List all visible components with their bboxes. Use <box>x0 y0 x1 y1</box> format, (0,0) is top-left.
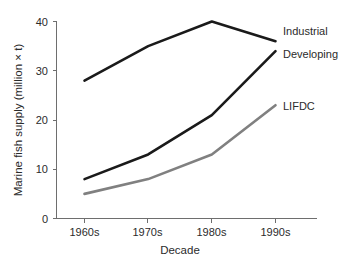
y-tick-label-10: 10 <box>36 163 48 175</box>
x-tick-label-1960s: 1960s <box>70 226 100 238</box>
x-tick-label-1980s: 1980s <box>197 226 227 238</box>
y-tick-label-40: 40 <box>36 16 48 28</box>
x-tick-marks <box>85 219 276 223</box>
line-chart-canvas: 40 30 20 10 0 1960s 1970s 1980s 1990s De… <box>0 0 344 264</box>
x-axis-title: Decade <box>160 244 200 256</box>
x-axis-tick-labels: 1960s 1970s 1980s 1990s <box>70 226 291 238</box>
series-label-developing: Developing <box>283 48 338 60</box>
y-axis-title: Marine fish supply (million × t) <box>12 44 24 197</box>
x-tick-label-1990s: 1990s <box>261 226 291 238</box>
y-tick-marks <box>53 22 57 219</box>
series-line-industrial <box>85 22 276 81</box>
x-tick-label-1970s: 1970s <box>133 226 163 238</box>
y-tick-label-30: 30 <box>36 65 48 77</box>
chart-figure: 40 30 20 10 0 1960s 1970s 1980s 1990s De… <box>0 0 344 264</box>
y-tick-label-0: 0 <box>42 213 48 225</box>
series-line-lifdc <box>85 105 276 194</box>
y-axis-tick-labels: 40 30 20 10 0 <box>36 16 48 225</box>
axis-spines <box>57 22 317 219</box>
series-label-industrial: Industrial <box>283 25 328 37</box>
y-tick-label-20: 20 <box>36 114 48 126</box>
series-line-developing <box>85 51 276 179</box>
series-label-lifdc: LIFDC <box>283 100 315 112</box>
